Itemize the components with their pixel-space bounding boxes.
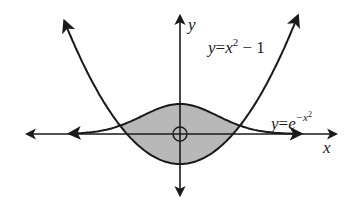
region-diagram: y x y=x2 − 1 y=e−x2 bbox=[0, 0, 357, 201]
gaussian-label: y=e−x2 bbox=[269, 110, 312, 133]
x-axis-label: x bbox=[322, 138, 331, 157]
y-axis-label: y bbox=[186, 15, 196, 34]
parabola-label: y=x2 − 1 bbox=[206, 36, 265, 57]
